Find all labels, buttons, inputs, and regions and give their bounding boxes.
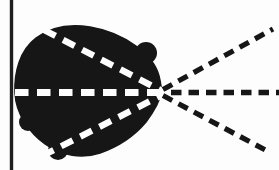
eye-blob-bump-2 bbox=[19, 113, 37, 131]
figure-canvas bbox=[0, 0, 279, 170]
eye-optics-figure bbox=[0, 0, 279, 170]
eye-blob-bump-0 bbox=[135, 42, 157, 64]
